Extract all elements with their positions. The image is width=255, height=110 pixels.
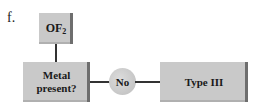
connector-answer-to-result (135, 81, 160, 83)
start-node-of2: OF2 (39, 13, 73, 44)
start-node-text: OF2 (46, 21, 67, 36)
answer-node-no: No (109, 68, 136, 95)
decision-node-metal-present: Metalpresent? (23, 62, 90, 102)
result-node-text: Type III (185, 76, 224, 88)
figure-label: f. (7, 10, 15, 26)
decision-node-text: Metalpresent? (36, 69, 76, 95)
result-node-type-iii: Type III (160, 62, 248, 102)
connector-vertical (55, 44, 57, 62)
answer-node-text: No (116, 76, 129, 88)
connector-decision-to-answer (90, 81, 110, 83)
